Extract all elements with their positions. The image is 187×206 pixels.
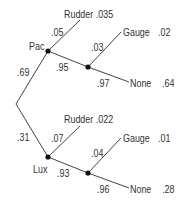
lux-none-prob: .96 [97,183,109,195]
root-up-prob: .69 [17,66,29,78]
pac-none-label: None [130,77,151,89]
pac-gauge-label: Gauge [123,26,150,38]
pac-none-value: .64 [162,77,174,89]
pac-gauge-value: .02 [158,26,170,38]
lux-label: Lux [33,163,47,175]
pac-sub-node [85,64,90,69]
lux-rudder-prob: .07 [51,132,63,144]
pac-gauge-prob: .03 [91,41,103,53]
lux-node [45,154,50,159]
lux-none-label: None [130,183,151,195]
pac-label: Pac [29,40,44,52]
lux-gauge-value: .01 [158,132,170,144]
pac-rudder-prob: .05 [51,26,63,38]
lux-gauge-label: Gauge [123,132,150,144]
lux-continue-prob: .93 [57,167,69,179]
lux-none-value: .28 [162,183,174,195]
lux-rudder-label: Rudder .022 [64,113,113,125]
pac-continue-prob: .95 [56,61,68,73]
pac-none-prob: .97 [97,77,109,89]
root-down-prob: .31 [17,131,29,143]
lux-sub-node [85,170,90,175]
lux-gauge-prob: .04 [91,147,103,159]
pac-rudder-label: Rudder .035 [64,8,113,20]
pac-node [45,48,50,53]
